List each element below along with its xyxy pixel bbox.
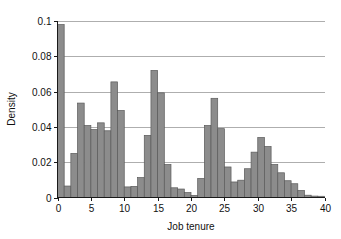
histogram-bar	[224, 167, 231, 198]
histogram-bar	[218, 129, 225, 198]
x-axis-title: Job tenure	[167, 221, 215, 232]
histogram-bar	[84, 125, 91, 197]
y-tick-label: 0.02	[32, 157, 52, 168]
histogram-bar	[284, 181, 291, 198]
histogram-bar	[71, 153, 78, 197]
histogram-bar	[258, 137, 265, 197]
histogram-bar	[138, 178, 145, 198]
histogram-bar	[298, 190, 305, 197]
histogram-bar	[64, 186, 71, 197]
x-tick-label: 20	[186, 203, 198, 214]
x-tick-label: 25	[219, 203, 231, 214]
histogram-bar	[78, 103, 85, 197]
job-tenure-density-histogram: 00.020.040.060.080.1 0510152025303540 Jo…	[0, 0, 341, 239]
histogram-bar	[204, 125, 211, 197]
histogram-bar	[231, 182, 238, 198]
y-tick-label: 0.08	[32, 51, 52, 62]
histogram-bar	[151, 70, 158, 197]
y-axis-title: Density	[6, 92, 17, 125]
x-tick-label: 15	[153, 203, 165, 214]
histogram-bar	[144, 135, 151, 197]
histogram-bar	[251, 152, 258, 197]
histogram-bar	[184, 193, 191, 198]
histogram-figure: 00.020.040.060.080.1 0510152025303540 Jo…	[0, 0, 341, 239]
y-tick-label: 0	[46, 193, 52, 204]
histogram-bar	[91, 130, 98, 198]
histogram-bar	[118, 110, 125, 197]
histogram-bar	[124, 187, 131, 198]
x-tick-label: 30	[253, 203, 265, 214]
x-tick-label: 35	[286, 203, 298, 214]
x-tick-label: 0	[56, 203, 62, 214]
x-tick-label: 10	[119, 203, 131, 214]
histogram-bar	[164, 164, 171, 197]
histogram-bar	[104, 131, 111, 198]
y-tick-label: 0.06	[32, 87, 52, 98]
y-axis-ticks-group: 00.020.040.060.080.1	[32, 16, 57, 204]
histogram-bar	[131, 186, 138, 197]
y-tick-label: 0.1	[38, 16, 52, 27]
histogram-bar	[271, 164, 278, 197]
histogram-bar	[178, 189, 185, 197]
histogram-bars-group	[58, 25, 325, 198]
histogram-bar	[171, 188, 178, 198]
histogram-bar	[244, 169, 251, 198]
histogram-bar	[211, 98, 218, 197]
histogram-bar	[291, 184, 298, 198]
x-axis-ticks-group: 0510152025303540	[56, 198, 332, 214]
histogram-bar	[278, 173, 285, 198]
histogram-bar	[264, 146, 271, 197]
histogram-bar	[198, 178, 205, 197]
histogram-bar	[158, 93, 165, 198]
x-tick-label: 5	[89, 203, 95, 214]
y-tick-label: 0.04	[32, 122, 52, 133]
histogram-bar	[111, 82, 118, 198]
x-tick-label: 40	[320, 203, 332, 214]
histogram-bar	[98, 123, 105, 198]
histogram-bar	[58, 25, 65, 198]
histogram-bar	[238, 180, 245, 197]
